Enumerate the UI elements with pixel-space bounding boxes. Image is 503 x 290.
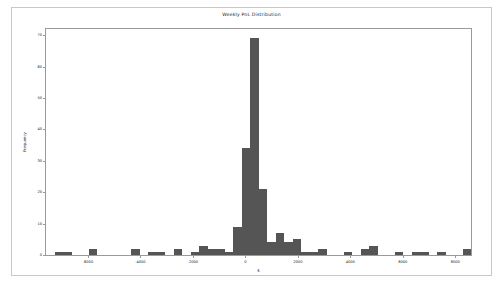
histogram-bar	[174, 249, 183, 255]
x-tick-mark	[403, 255, 404, 258]
y-tick-mark	[43, 67, 46, 68]
histogram-bar	[225, 252, 234, 255]
histogram-bar	[463, 249, 472, 255]
chart-title: Weekly PnL Distribution	[11, 12, 492, 17]
histogram-bar	[191, 252, 200, 255]
y-tick-mark	[43, 129, 46, 130]
histogram-bar	[395, 252, 404, 255]
histogram-bar	[233, 227, 242, 255]
histogram-bar	[301, 252, 310, 255]
y-tick-label: 40	[37, 127, 42, 131]
x-tick-label: -2000	[188, 260, 198, 264]
x-tick-label: -4000	[135, 260, 145, 264]
histogram-bar	[89, 249, 98, 255]
histogram-bar	[420, 252, 429, 255]
histogram-bar	[412, 252, 421, 255]
y-axis-title: Frequency	[22, 132, 27, 152]
histogram-bar	[157, 252, 166, 255]
x-tick-label: 8000	[451, 260, 460, 264]
x-tick-mark	[193, 255, 194, 258]
y-tick-label: 10	[37, 222, 42, 226]
histogram-bar	[276, 233, 285, 255]
x-tick-mark	[350, 255, 351, 258]
x-tick-mark	[245, 255, 246, 258]
histogram-bar	[293, 239, 302, 255]
histogram-bar	[318, 249, 327, 255]
x-tick-label: 0	[244, 260, 246, 264]
x-tick-mark	[298, 255, 299, 258]
histogram-bar	[199, 246, 208, 255]
x-tick-mark	[140, 255, 141, 258]
x-tick-label: 4000	[346, 260, 355, 264]
y-tick-label: 60	[37, 65, 42, 69]
y-tick-label: 20	[37, 190, 42, 194]
plot-area	[46, 29, 471, 255]
histogram-bar	[216, 249, 225, 255]
y-tick-label: 70	[37, 33, 42, 37]
x-tick-label: 2000	[293, 260, 302, 264]
histogram-bar	[437, 252, 446, 255]
y-tick-mark	[43, 98, 46, 99]
histogram-bar	[284, 242, 293, 255]
histogram-bar	[310, 252, 319, 255]
y-tick-label: 50	[37, 96, 42, 100]
y-tick-mark	[43, 35, 46, 36]
y-tick-mark	[43, 161, 46, 162]
histogram-bar	[361, 249, 370, 255]
histogram-bar	[250, 38, 259, 255]
plot-axes: 010203040506070-6000-4000-20000200040006…	[45, 28, 472, 256]
histogram-bar	[148, 252, 157, 255]
x-tick-mark	[455, 255, 456, 258]
y-tick-mark	[43, 192, 46, 193]
histogram-bar	[208, 249, 217, 255]
histogram-bar	[131, 249, 140, 255]
histogram-bar	[63, 252, 72, 255]
x-tick-label: -6000	[83, 260, 93, 264]
histogram-bar	[259, 189, 268, 255]
x-axis-title: $	[45, 268, 472, 273]
histogram-bar	[55, 252, 64, 255]
y-tick-label: 0	[40, 253, 42, 257]
y-tick-mark	[43, 255, 46, 256]
chart-figure: Weekly PnL Distribution Frequency 010203…	[0, 0, 503, 290]
y-tick-label: 30	[37, 159, 42, 163]
y-tick-mark	[43, 224, 46, 225]
x-tick-mark	[88, 255, 89, 258]
histogram-bar	[369, 246, 378, 255]
histogram-bar	[242, 148, 251, 255]
x-tick-label: 6000	[398, 260, 407, 264]
histogram-bar	[267, 242, 276, 255]
